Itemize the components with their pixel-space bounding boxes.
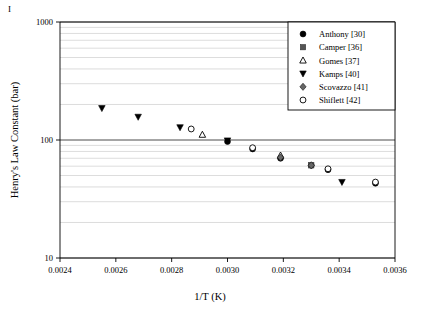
y-axis-tick-label: 100 [40, 135, 53, 145]
x-axis-tick-label: 0.0028 [160, 265, 183, 275]
legend-marker-anthony [300, 31, 306, 37]
henrys-law-constant-scatter-chart: I 0.00240.00260.00280.00300.00320.00340.… [0, 0, 421, 313]
chart-legend: Anthony [30]Camper [36]Gomes [37]Kamps [… [288, 22, 395, 110]
data-point [188, 126, 194, 132]
legend-label-shiflett: Shiflett [42] [319, 95, 360, 105]
data-point [325, 166, 331, 172]
legend-label-scovazzo: Scovazzo [41] [319, 82, 368, 92]
x-axis-title: 1/T (K) [194, 291, 226, 303]
legend-marker-camper [300, 45, 305, 50]
x-axis-tick-label: 0.0034 [327, 265, 351, 275]
data-point [250, 145, 256, 151]
legend-label-camper: Camper [36] [319, 42, 362, 52]
x-axis-tick-label: 0.0026 [104, 265, 127, 275]
y-axis-title: Henry's Law Constant (bar) [9, 81, 21, 198]
x-axis-tick-label: 0.0036 [383, 265, 406, 275]
y-axis-tick-label: 1000 [36, 17, 53, 27]
legend-label-anthony: Anthony [30] [319, 29, 365, 39]
x-axis-tick-label: 0.0024 [48, 265, 72, 275]
legend-label-kamps: Kamps [40] [319, 69, 360, 79]
corner-mark: I [8, 4, 11, 14]
data-point [373, 179, 379, 185]
legend-label-gomes: Gomes [37] [319, 56, 360, 66]
y-axis-tick-label: 10 [45, 253, 54, 263]
x-axis-tick-label: 0.0032 [272, 265, 295, 275]
legend-marker-shiflett [300, 97, 306, 103]
x-axis-tick-label: 0.0030 [216, 265, 239, 275]
figure-container: I 0.00240.00260.00280.00300.00320.00340.… [0, 0, 421, 313]
